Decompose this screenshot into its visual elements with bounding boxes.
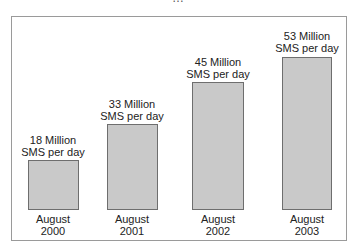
data-label-value: 53 Million bbox=[257, 30, 356, 42]
data-label-2003: 53 Million SMS per day bbox=[257, 30, 356, 54]
bar-2002 bbox=[192, 82, 244, 210]
data-label-unit: SMS per day bbox=[3, 146, 103, 158]
data-label-unit: SMS per day bbox=[257, 42, 356, 54]
bar-2003 bbox=[282, 57, 332, 210]
category-label-2002: August 2002 bbox=[168, 213, 268, 237]
category-year: 2001 bbox=[82, 225, 182, 237]
category-label-2001: August 2001 bbox=[82, 213, 182, 237]
data-label-value: 45 Million bbox=[168, 56, 268, 68]
category-year: 2003 bbox=[257, 225, 356, 237]
data-label-unit: SMS per day bbox=[82, 110, 182, 122]
data-label-value: 18 Million bbox=[3, 134, 103, 146]
data-label-2002: 45 Million SMS per day bbox=[168, 56, 268, 80]
data-label-2000: 18 Million SMS per day bbox=[3, 134, 103, 158]
data-label-value: 33 Million bbox=[82, 98, 182, 110]
data-label-unit: SMS per day bbox=[168, 68, 268, 80]
cropped-caption: … bbox=[0, 0, 356, 5]
category-month: August bbox=[82, 213, 182, 225]
category-month: August bbox=[168, 213, 268, 225]
category-year: 2002 bbox=[168, 225, 268, 237]
bar-2000 bbox=[28, 160, 79, 210]
category-label-2003: August 2003 bbox=[257, 213, 356, 237]
data-label-2001: 33 Million SMS per day bbox=[82, 98, 182, 122]
category-month: August bbox=[257, 213, 356, 225]
bar-2001 bbox=[107, 124, 158, 210]
